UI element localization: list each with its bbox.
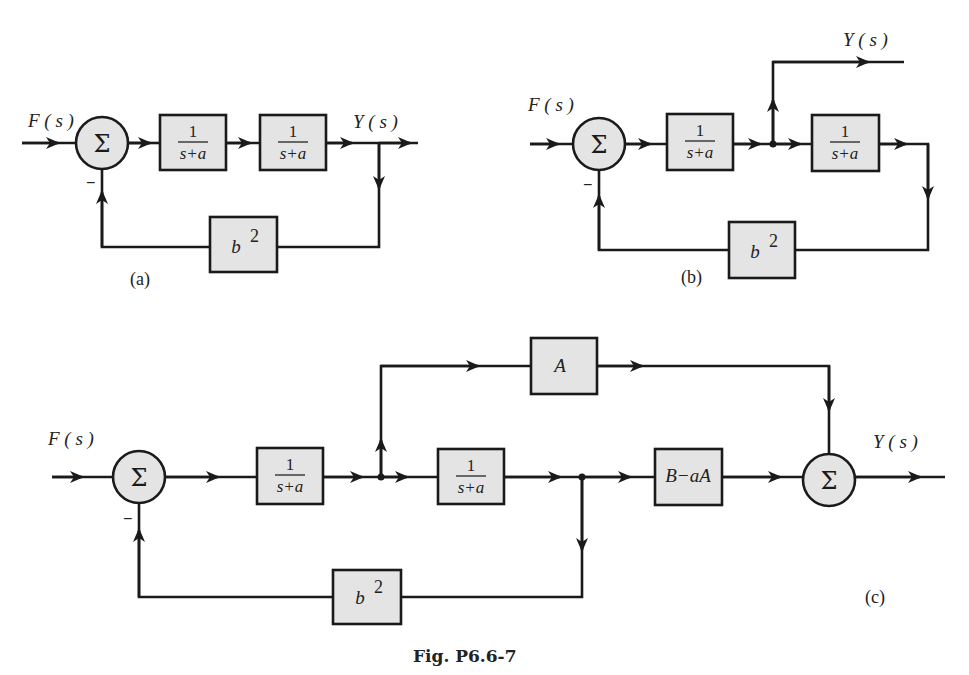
svg-text:1: 1 [189, 122, 198, 141]
transfer-block-c2: 1 s+a [438, 449, 504, 504]
svg-text:A: A [552, 355, 566, 376]
transfer-block-a1: 1 s+a [160, 115, 226, 170]
input-label-b: F ( s ) [527, 94, 574, 116]
svg-text:Σ: Σ [821, 467, 838, 495]
feedback-sign-b: − [583, 176, 592, 193]
output-label-b: Y ( s ) [843, 29, 888, 51]
feedback-block-c: b 2 [333, 570, 401, 624]
feedback-block-a: b 2 [210, 217, 277, 272]
feedback-sign-a: − [86, 174, 95, 191]
svg-text:2: 2 [250, 226, 259, 246]
svg-text:b: b [231, 236, 241, 257]
feedback-sign-c: − [123, 510, 132, 527]
label-c: (c) [865, 587, 885, 608]
feedforward-block-A: A [531, 338, 597, 394]
svg-text:1: 1 [289, 122, 298, 141]
transfer-block-c1: 1 s+a [257, 448, 323, 504]
svg-text:s+a: s+a [832, 144, 859, 163]
svg-text:s+a: s+a [180, 144, 207, 163]
summing-junction-a: Σ [76, 117, 128, 169]
svg-text:2: 2 [374, 577, 383, 597]
diagram-b: F ( s ) Σ − 1 s+a Y ( s ) 1 s+a [527, 29, 928, 288]
transfer-block-b2: 1 s+a [812, 115, 879, 171]
svg-text:B−aA: B−aA [665, 465, 711, 486]
svg-text:s+a: s+a [458, 478, 485, 497]
output-label-c: Y ( s ) [873, 431, 918, 453]
block-diagram-figure: F ( s ) Σ − 1 s+a 1 s+a Y ( [0, 0, 969, 675]
diagram-a: F ( s ) Σ − 1 s+a 1 s+a Y ( [22, 110, 418, 290]
svg-text:1: 1 [286, 455, 295, 474]
summing-junction-b: Σ [573, 118, 625, 170]
svg-text:b: b [750, 241, 760, 262]
figure-caption: Fig. P6.6-7 [413, 646, 517, 666]
diagram-c: F ( s ) Σ − 1 s+a A [47, 338, 945, 624]
label-a: (a) [130, 269, 150, 290]
svg-text:1: 1 [696, 121, 705, 140]
svg-text:s+a: s+a [280, 144, 307, 163]
input-label-c: F ( s ) [47, 428, 94, 450]
transfer-block-b1: 1 s+a [667, 114, 733, 170]
summing-junction-c2: Σ [803, 454, 855, 506]
svg-text:2: 2 [769, 231, 778, 251]
output-block-B-minus-aA: B−aA [655, 449, 722, 505]
label-b: (b) [681, 267, 702, 288]
svg-text:s+a: s+a [277, 477, 304, 496]
svg-text:1: 1 [841, 122, 850, 141]
input-label-a: F ( s ) [27, 110, 74, 132]
svg-text:Σ: Σ [591, 131, 608, 159]
sigma-symbol: Σ [94, 130, 111, 158]
output-label-a: Y ( s ) [353, 111, 398, 133]
feedback-block-b: b 2 [729, 222, 795, 278]
summing-junction-c1: Σ [113, 451, 165, 503]
svg-text:1: 1 [467, 456, 476, 475]
transfer-block-a2: 1 s+a [260, 115, 326, 170]
svg-text:b: b [355, 587, 365, 608]
svg-text:Σ: Σ [131, 464, 148, 492]
svg-text:s+a: s+a [687, 143, 714, 162]
